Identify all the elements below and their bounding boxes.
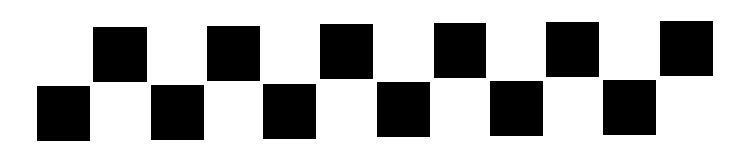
- black-square-bottom: [377, 82, 430, 137]
- black-square-bottom: [263, 84, 316, 139]
- black-square-top: [207, 26, 260, 81]
- checker-pattern: [0, 0, 749, 150]
- black-square-bottom: [603, 80, 656, 135]
- black-square-top: [660, 21, 713, 76]
- black-square-bottom: [37, 86, 90, 141]
- black-square-top: [93, 27, 147, 82]
- black-square-top: [434, 23, 486, 78]
- black-square-top: [320, 24, 373, 79]
- black-square-bottom: [151, 85, 204, 140]
- black-square-top: [546, 22, 599, 77]
- black-square-bottom: [490, 81, 543, 136]
